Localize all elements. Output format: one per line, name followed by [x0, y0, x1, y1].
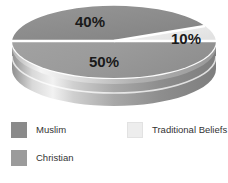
legend-swatch-icon-traditional-beliefs	[127, 122, 143, 138]
legend-item-muslim[interactable]: Muslim	[11, 122, 66, 138]
legend-label-muslim: Muslim	[36, 125, 66, 135]
legend-swatch-icon-christian	[11, 150, 27, 166]
pie-chart-graphic: 40% 50% 10%	[0, 0, 228, 118]
legend-item-traditional-beliefs[interactable]: Traditional Beliefs	[127, 122, 227, 138]
slice-data-label-muslim: 40%	[75, 13, 105, 30]
pie-chart-svg: 40% 50% 10%	[0, 0, 228, 118]
slice-data-label-christian: 50%	[89, 53, 119, 70]
slice-data-label-traditional-beliefs: 10%	[171, 30, 201, 47]
legend-label-christian: Christian	[36, 153, 74, 163]
legend-label-traditional-beliefs: Traditional Beliefs	[152, 125, 227, 135]
legend-swatch-icon-muslim	[11, 122, 27, 138]
chart-legend: Muslim Christian Traditional Beliefs	[0, 118, 228, 183]
pie-chart-figure: 40% 50% 10% Muslim Christian Traditional…	[0, 0, 228, 183]
legend-item-christian[interactable]: Christian	[11, 150, 74, 166]
